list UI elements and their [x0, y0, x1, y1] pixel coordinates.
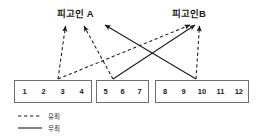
item-9: 9	[174, 88, 192, 96]
diagram-canvas: 피고인 A 피고인B 1 2 3 4 5 6 7	[0, 0, 266, 138]
item-6: 6	[114, 88, 131, 96]
edge-6-to-b	[113, 25, 195, 79]
defendant-a-title: 피고인 A	[57, 6, 94, 20]
item-2: 2	[34, 88, 53, 96]
group-box-1: 1 2 3 4	[14, 80, 92, 103]
item-12: 12	[230, 88, 248, 96]
edge-10-to-a	[105, 25, 196, 79]
item-5: 5	[97, 88, 114, 96]
dashed-line-icon	[18, 111, 42, 121]
item-3: 3	[53, 88, 72, 96]
solid-line-icon	[18, 123, 42, 133]
item-10: 10	[193, 88, 211, 96]
item-8: 8	[156, 88, 174, 96]
item-7: 7	[131, 88, 148, 96]
edge-3-to-a	[58, 26, 66, 79]
legend-row-not-guilty: 무죄	[18, 122, 138, 134]
item-4: 4	[72, 88, 91, 96]
defendant-b-title: 피고인B	[172, 6, 206, 20]
edge-3-to-b	[58, 25, 190, 79]
legend-row-guilty: 유죄	[18, 110, 138, 122]
item-1: 1	[15, 88, 34, 96]
edge-10-to-b	[196, 26, 200, 79]
edge-6-to-a	[84, 26, 113, 79]
legend-label-guilty: 유죄	[48, 111, 60, 121]
group-box-2: 5 6 7	[96, 80, 149, 103]
legend-label-not-guilty: 무죄	[48, 123, 60, 133]
group-box-3: 8 9 10 11 12	[155, 80, 249, 103]
item-11: 11	[211, 88, 229, 96]
legend: 유죄 무죄	[18, 110, 138, 134]
